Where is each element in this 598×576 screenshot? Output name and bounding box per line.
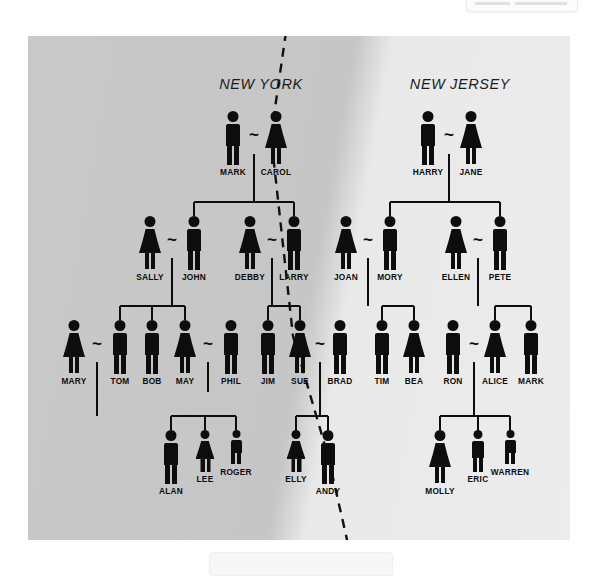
child-drop-g2_to_g3 xyxy=(299,306,301,320)
person-joan-generation-2[interactable]: JOAN xyxy=(334,216,358,269)
descent-stem-g2_to_g3 xyxy=(271,288,273,306)
person-ron-generation-3[interactable]: RON xyxy=(441,320,465,373)
person-roger-generation-4[interactable]: ROGER xyxy=(226,430,247,464)
figure-body xyxy=(429,443,451,483)
person-eric-generation-4[interactable]: ERIC xyxy=(467,430,489,471)
person-jane-generation-1[interactable]: JANE xyxy=(459,111,483,164)
marriage-tilde-ellen-pete: ~ xyxy=(473,231,483,248)
person-bob-generation-3[interactable]: BOB xyxy=(140,320,164,373)
person-larry-generation-2[interactable]: LARRY xyxy=(282,216,306,269)
figure-head xyxy=(263,320,274,331)
person-alan-generation-4[interactable]: ALAN xyxy=(159,430,183,483)
figure-head xyxy=(295,320,306,331)
person-carol-generation-1[interactable]: CAROL xyxy=(264,111,288,164)
female-figure-icon xyxy=(288,320,312,373)
marriage-descent-stem xyxy=(448,154,450,184)
figure-head xyxy=(526,320,537,331)
person-name-label: JOHN xyxy=(182,272,206,282)
person-elly-generation-4[interactable]: ELLY xyxy=(285,430,307,471)
descent-stem-g1_to_g2 xyxy=(253,184,255,202)
child-drop-g2_to_g3 xyxy=(381,306,383,320)
person-molly-generation-4[interactable]: MOLLY xyxy=(428,430,452,483)
sibling-bar-g1_to_g2 xyxy=(390,201,500,203)
descent-stem-g1_to_g2 xyxy=(448,184,450,202)
child-drop-g2_to_g3 xyxy=(151,306,153,320)
marriage-tilde-may-phil: ~ xyxy=(203,335,213,352)
person-tim-generation-3[interactable]: TIM xyxy=(370,320,394,373)
figure-head xyxy=(145,216,156,227)
figure-body xyxy=(187,229,201,269)
person-brad-generation-3[interactable]: BRAD xyxy=(328,320,352,373)
person-pete-generation-2[interactable]: PETE xyxy=(488,216,512,269)
female-figure-icon xyxy=(264,111,288,164)
person-andy-generation-4[interactable]: ANDY xyxy=(316,430,340,483)
figure-body xyxy=(164,443,178,483)
person-lee-generation-4[interactable]: LEE xyxy=(194,430,216,471)
child-drop-g1_to_g2 xyxy=(389,202,391,216)
figure-body xyxy=(335,229,357,269)
male-figure-icon xyxy=(226,430,247,464)
marriage-descent-stem xyxy=(207,362,209,392)
descent-stem-g2_to_g3 xyxy=(171,288,173,306)
marriage-descent-stem xyxy=(473,362,475,392)
figure-body xyxy=(460,124,482,164)
descent-stem-g2_to_g3 xyxy=(477,288,479,306)
figure-body xyxy=(421,124,435,164)
figure-head xyxy=(490,320,501,331)
figure-body xyxy=(383,229,397,269)
person-harry-generation-1[interactable]: HARRY xyxy=(416,111,440,164)
female-figure-icon xyxy=(194,430,216,471)
figure-body xyxy=(472,441,484,471)
child-drop-g3_to_g4 xyxy=(170,416,172,430)
person-name-label: ALICE xyxy=(482,376,508,386)
person-may-generation-3[interactable]: MAY xyxy=(173,320,197,373)
figure-body xyxy=(446,333,460,373)
person-mark-generation-3[interactable]: MARK xyxy=(519,320,543,373)
figure-head xyxy=(474,430,483,439)
clipped-toolbar-chrome-bottom[interactable] xyxy=(209,552,393,576)
figure-body xyxy=(224,333,238,373)
person-name-label: MARY xyxy=(61,376,86,386)
person-mary-generation-3[interactable]: MARY xyxy=(62,320,86,373)
marriage-tilde-debby-larry: ~ xyxy=(267,231,277,248)
person-sally-generation-2[interactable]: SALLY xyxy=(138,216,162,269)
figure-body xyxy=(239,229,261,269)
person-mory-generation-2[interactable]: MORY xyxy=(378,216,402,269)
person-name-label: MORY xyxy=(377,272,403,282)
figure-head xyxy=(435,430,446,441)
female-figure-icon xyxy=(459,111,483,164)
figure-head xyxy=(180,320,191,331)
person-warren-generation-4[interactable]: WARREN xyxy=(500,430,521,464)
male-figure-icon xyxy=(370,320,394,373)
figure-body xyxy=(445,229,467,269)
figure-body xyxy=(139,229,161,269)
figure-body xyxy=(261,333,275,373)
sibling-bar-g1_to_g2 xyxy=(194,201,294,203)
person-alice-generation-3[interactable]: ALICE xyxy=(483,320,507,373)
figure-head xyxy=(377,320,388,331)
person-mark-generation-1[interactable]: MARK xyxy=(221,111,245,164)
person-name-label: MARK xyxy=(220,167,246,177)
person-debby-generation-2[interactable]: DEBBY xyxy=(238,216,262,269)
male-figure-icon xyxy=(159,430,183,483)
person-john-generation-2[interactable]: JOHN xyxy=(182,216,206,269)
person-name-label: MAY xyxy=(176,376,194,386)
person-ellen-generation-2[interactable]: ELLEN xyxy=(444,216,468,269)
person-sue-generation-3[interactable]: SUE xyxy=(288,320,312,373)
person-tom-generation-3[interactable]: TOM xyxy=(108,320,132,373)
toolbar-ghost-content xyxy=(475,2,567,5)
figure-head xyxy=(69,320,80,331)
marriage-tilde-ron-alice: ~ xyxy=(469,335,479,352)
clipped-toolbar-chrome-top[interactable] xyxy=(466,0,578,12)
person-bea-generation-3[interactable]: BEA xyxy=(402,320,426,373)
figure-body xyxy=(484,333,506,373)
person-jim-generation-3[interactable]: JIM xyxy=(256,320,280,373)
marriage-descent-stem xyxy=(367,258,369,288)
female-figure-icon xyxy=(238,216,262,269)
descent-stem-g3_to_g4 xyxy=(319,392,321,416)
sibling-bar-g2_to_g3 xyxy=(495,305,531,307)
child-drop-g2_to_g3 xyxy=(494,306,496,320)
person-phil-generation-3[interactable]: PHIL xyxy=(219,320,243,373)
person-name-label: TIM xyxy=(374,376,389,386)
child-drop-g3_to_g4 xyxy=(509,416,511,430)
